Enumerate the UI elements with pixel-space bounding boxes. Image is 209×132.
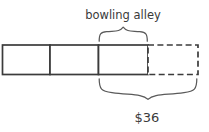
tape-segment-3 — [99, 45, 149, 75]
top-brace — [99, 27, 147, 41]
total-amount-label: $36 — [135, 110, 160, 125]
tape-diagram-canvas: bowling alley $36 — [0, 0, 209, 132]
tape-segment-1 — [3, 45, 51, 75]
bottom-brace — [99, 79, 197, 100]
bowling-alley-label: bowling alley — [85, 8, 161, 22]
tape-segment-4-dashed — [148, 45, 198, 75]
tape-diagram-figure: bowling alley $36 — [0, 0, 209, 132]
tape-segment-2 — [50, 45, 99, 75]
